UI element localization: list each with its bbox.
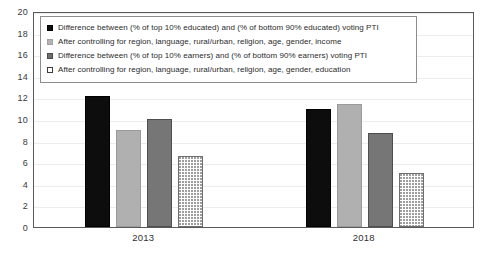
y-tick-label: 8 [23,137,28,147]
x-category-label: 2018 [353,232,375,243]
y-tick-label: 14 [18,72,28,82]
bar [85,96,110,227]
legend-item[interactable]: After controlling for region, language, … [47,63,410,77]
legend-item[interactable]: Difference between (% of top 10% earners… [47,49,410,63]
bar [147,119,172,227]
legend-label: Difference between (% of top 10% educate… [58,24,379,32]
x-axis-category-labels: 20132018 [33,232,474,252]
bar [178,156,203,227]
y-tick-label: 0 [23,223,28,233]
y-tick-label: 2 [23,201,28,211]
legend-label: After controlling for region, language, … [58,38,341,46]
legend-item[interactable]: Difference between (% of top 10% educate… [47,21,410,35]
bar-chart: 02468101214161820 20132018 Difference be… [0,0,480,259]
legend-swatch-icon [47,53,53,59]
y-tick-label: 16 [18,50,28,60]
bar [399,173,424,227]
bar [368,133,393,227]
legend-label: Difference between (% of top 10% earners… [58,52,367,60]
y-tick-label: 12 [18,93,28,103]
chart-legend: Difference between (% of top 10% educate… [40,16,417,83]
legend-item[interactable]: After controlling for region, language, … [47,35,410,49]
y-axis: 02468101214161820 [0,12,32,228]
y-tick-label: 18 [18,29,28,39]
legend-swatch-icon [47,39,53,45]
y-tick-label: 6 [23,158,28,168]
legend-swatch-icon [47,25,53,31]
bar [116,130,141,227]
x-category-label: 2013 [132,232,154,243]
bar [337,104,362,227]
y-tick-label: 20 [18,7,28,17]
legend-label: After controlling for region, language, … [58,66,350,74]
y-tick-label: 4 [23,180,28,190]
bar [306,109,331,227]
legend-swatch-icon [47,67,53,73]
y-tick-label: 10 [18,115,28,125]
